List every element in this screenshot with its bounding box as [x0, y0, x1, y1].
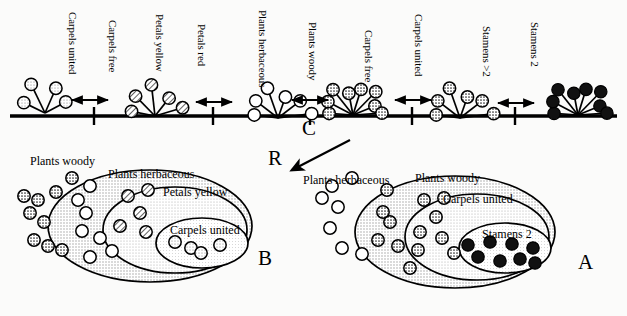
diagram-a-circle-outer-band [412, 244, 424, 256]
label-diagram-b: B [258, 248, 272, 269]
star-plants-woody-star [322, 83, 388, 120]
diagram-b-circle-mid-band [114, 220, 126, 232]
set-label-b-outer: Plants herbaceous [108, 168, 194, 180]
diagram-a-circle-mid-band [436, 232, 448, 244]
diagram-b-circle-mid-band [142, 184, 154, 196]
diagram-b-circle-outer-band [84, 251, 96, 263]
diagram-a-circle-inner [529, 257, 541, 269]
diagram-a-circle-inner [472, 251, 484, 263]
diagram-a-circle-outside [332, 201, 344, 213]
label-diagram-a: A [578, 252, 593, 273]
axis-label-carpels-free: Carpels free [107, 20, 118, 72]
label-c: C [302, 118, 316, 139]
diagram-b-circle-outside [50, 186, 62, 198]
diagram-b-circle-outside [18, 190, 30, 202]
figure-root: Carpels unitedCarpels freePetals yellowP… [0, 0, 627, 316]
diagram-b-circle-mid-band [134, 207, 146, 219]
axis-label-plants-woody: Plants woody [307, 22, 318, 80]
diagram-b-circle-outside [42, 240, 54, 252]
diagram-a-circle-mid-band [418, 194, 430, 206]
axis-label-carpels-free-2: Carpels free [363, 30, 374, 82]
axis-label-carpels-united: Carpels united [67, 12, 78, 74]
set-label-a-outer: Plants woody [415, 172, 480, 184]
diagram-b-outside-label: Plants woody [30, 155, 95, 167]
diagram-a-circle-inner [514, 253, 526, 265]
diagram-b-circle-outer-band [106, 245, 118, 257]
star-stamens-2-star [547, 83, 613, 120]
diagram-a-circle-inner [527, 242, 539, 254]
diagram-a-circle-mid-band [448, 247, 460, 259]
diagram-a-circle-inner [462, 239, 474, 251]
axis-label-plants-herbaceous: Plants herbaceous [257, 10, 268, 87]
diagram-b-circle-outer-band [84, 180, 96, 192]
diagram-a-circle-outer-band [372, 234, 384, 246]
diagram-a-circle-outside [356, 248, 368, 260]
diagram-a-circle-inner [494, 255, 506, 267]
diagram-a-circle-mid-band [430, 211, 442, 223]
diagram-a-circle-outer-band [392, 240, 404, 252]
diagram-b-circle-mid-band [122, 190, 134, 202]
diagram-b-circle-outside [38, 216, 50, 228]
diagram-a-circle-outside [336, 242, 348, 254]
diagram-a-circle-outside [316, 192, 328, 204]
axis-label-stamens-2: Stamens 2 [529, 22, 540, 67]
set-label-b-inner: Carpels united [170, 224, 240, 236]
axis-label-petals-red: Petals red [196, 24, 207, 66]
r-pointer-arrow [292, 140, 350, 170]
star-carpels-united-star [18, 78, 72, 113]
diagram-a-circle-outside [324, 222, 336, 234]
diagram-a-circle-mid-band [414, 226, 426, 238]
axis-label-carpels-united-2: Carpels united [413, 14, 424, 76]
diagram-b-circle-outer-band [72, 194, 84, 206]
diagram-a-circle-outer-band [384, 216, 396, 228]
diagram-b-circle-outside [66, 172, 78, 184]
axis-label-petals-yellow: Petals yellow [154, 14, 165, 72]
diagram-a-outside-label: Plants herbaceous [303, 174, 389, 186]
pointer-arrow [292, 140, 350, 170]
diagram-b-circle-outer-band [80, 207, 92, 219]
diagram-a-circle-outer-band [404, 262, 416, 274]
diagram-b-circle-inner [169, 236, 181, 248]
set-label-b-mid: Petals yellow [163, 186, 227, 198]
diagram-b-circle-outer-band [76, 225, 88, 237]
diagram-b-circle-outside [56, 244, 68, 256]
set-label-a-inner: Stamens 2 [482, 228, 532, 240]
axis-label-stamens-gt2: Stamens >2 [481, 26, 492, 77]
diagram-b-circle-outside [24, 207, 36, 219]
diagram-b-circle-inner [195, 247, 207, 259]
diagram-b-circle-outside [32, 194, 44, 206]
diagram-b-circle-mid-band [140, 226, 152, 238]
label-r: R [268, 148, 282, 169]
diagram-b-circle-outside [28, 234, 40, 246]
diagram-b-circle-outer-band [94, 232, 106, 244]
set-label-a-mid: Carpels united [443, 193, 513, 205]
diagram-b-circle-inner [214, 239, 226, 251]
star-petals-yellow-star [125, 79, 188, 118]
